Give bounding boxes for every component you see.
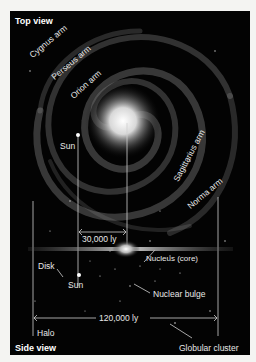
disk-label: Disk [38,262,55,271]
top-view-title: Top view [15,17,53,26]
galaxy-diagram-panel: Top view Cygnus arm Perseus arm Orion ar… [10,11,250,355]
halo-label: Halo [37,329,54,338]
side-view-title: Side view [15,344,56,353]
nucleus-label: Nucleus (core) [146,255,198,263]
distance-30000-label: 30,000 ly [82,235,117,244]
globular-cluster-label: Globular cluster [179,344,239,353]
sun-marker-top [76,133,80,137]
sun-label-side: Sun [68,281,83,290]
sun-marker-side [77,273,81,277]
sun-label-top: Sun [60,142,75,151]
nuclear-bulge-label: Nuclear bulge [153,290,205,299]
distance-120000-label: 120,000 ly [99,314,138,323]
galactic-core [85,83,161,159]
